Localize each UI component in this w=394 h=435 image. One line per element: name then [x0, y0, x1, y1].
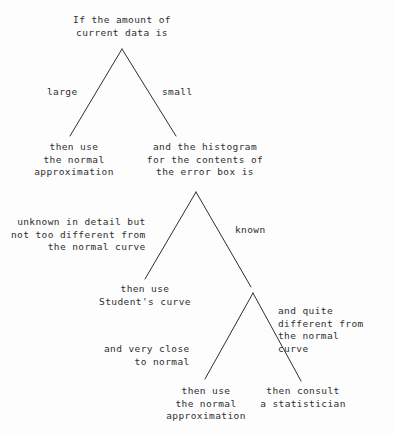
edge-root-to-large — [70, 49, 122, 136]
node-histogram-question: and the histogram for the contents of th… — [147, 141, 263, 179]
edge-known-to-very-close — [205, 293, 253, 379]
decision-tree-diagram: If the amount of current data isthen use… — [0, 0, 394, 435]
node-root: If the amount of current data is — [73, 14, 171, 39]
edge-histogram-to-unknown — [145, 192, 196, 279]
node-students-curve: then use Student's curve — [99, 283, 191, 308]
edge-label-large: large — [47, 86, 78, 99]
edge-label-quite-different: and quite different from the normal curv… — [278, 305, 364, 355]
edge-label-small: small — [162, 86, 193, 99]
node-consult-statistician: then consult a statistician — [260, 385, 346, 410]
edge-label-known: known — [235, 224, 266, 237]
edge-label-very-close: and very close to normal — [104, 343, 190, 368]
node-normal-approx-close: then use the normal approximation — [166, 385, 246, 423]
edge-label-unknown-detail: unknown in detail but not too different … — [11, 216, 146, 254]
node-normal-approx-large: then use the normal approximation — [34, 141, 114, 179]
edge-histogram-to-known — [196, 192, 251, 287]
